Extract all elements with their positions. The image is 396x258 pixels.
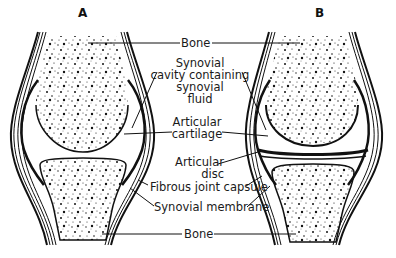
label-articular-disc-line2: disc [168, 168, 224, 180]
label-articular-cartilage: Articular cartilage [160, 116, 234, 140]
panel-b-upper-bone [266, 36, 358, 144]
panel-label-b: B [315, 6, 324, 20]
panel-a-lower-bone [40, 158, 126, 240]
label-synovial-membrane: Synovial membrane [154, 201, 269, 213]
label-bone-bottom: Bone [184, 228, 213, 240]
label-synovial-cavity: Synovial cavity containing synovial flui… [150, 57, 250, 105]
panel-label-a: A [78, 6, 87, 20]
panel-b-lower-bone [272, 164, 354, 242]
panel-b-articular-disc-lower [260, 156, 366, 159]
label-bone-top: Bone [181, 37, 210, 49]
panel-b-articular-disc [258, 150, 368, 155]
panel-a-joint [11, 32, 154, 245]
joint-diagram: A B Bone Synovial cavity containing syno… [0, 0, 396, 258]
label-articular-cartilage-line2: cartilage [160, 128, 234, 140]
label-fibrous-capsule: Fibrous joint capsule [150, 181, 268, 193]
panel-a-upper-bone [36, 36, 128, 150]
label-articular-disc: Articular disc [168, 156, 224, 180]
label-synovial-cavity-line4: fluid [150, 93, 250, 105]
